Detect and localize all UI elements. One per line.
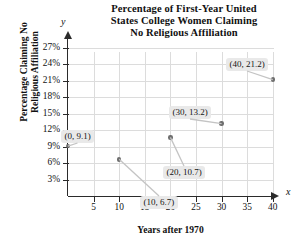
y-axis-arrow-icon: [64, 31, 72, 39]
y-axis-tick: [63, 114, 69, 115]
data-point-marker: [117, 157, 121, 161]
y-axis-tick-label: 27%: [18, 42, 60, 52]
x-axis-variable-label: x: [286, 186, 290, 197]
y-axis-tick: [63, 97, 69, 98]
chart-title-line-1: Percentage of First-Year United: [62, 3, 306, 15]
gridline-vertical: [119, 52, 120, 196]
x-axis-tick-label: 35: [236, 202, 258, 212]
gridline-vertical: [247, 52, 248, 196]
data-point-callout: (0, 9.1): [61, 130, 94, 143]
x-axis-title: Years after 1970: [68, 224, 273, 235]
y-axis-tick-label: 6%: [18, 157, 60, 167]
chart-figure: Percentage of First-Year United States C…: [0, 0, 308, 246]
y-axis-line: [67, 38, 68, 196]
gridline-vertical: [145, 52, 146, 196]
y-axis-tick-label: 9%: [18, 141, 60, 151]
x-axis-tick-label: 30: [211, 202, 233, 212]
y-axis-tick: [63, 163, 69, 164]
data-point-callout: (40, 21.2): [226, 58, 268, 71]
x-axis-tick-label: 25: [185, 202, 207, 212]
chart-title: Percentage of First-Year United States C…: [62, 3, 306, 40]
data-point-marker: [271, 77, 275, 81]
data-point-marker: [219, 121, 223, 125]
y-axis-tick-label: 21%: [18, 75, 60, 85]
data-point-callout: (30, 13.2): [169, 106, 211, 119]
x-axis-tick-label: 10: [108, 202, 130, 212]
y-axis-tick-label: 24%: [18, 58, 60, 68]
data-point-marker: [168, 135, 172, 139]
y-axis-tick-label: 3%: [18, 174, 60, 184]
y-axis-tick-label: 18%: [18, 91, 60, 101]
x-axis-tick-label: 40: [262, 202, 284, 212]
data-point-callout: (10, 6.7): [140, 196, 178, 209]
y-axis-tick-label: 12%: [18, 124, 60, 134]
gridline-vertical: [273, 52, 274, 196]
chart-title-line-2: States College Women Claiming: [62, 15, 306, 27]
y-axis-tick-label: 15%: [18, 108, 60, 118]
y-axis-tick: [63, 180, 69, 181]
y-axis-tick: [63, 81, 69, 82]
y-axis-variable-label: y: [61, 16, 65, 27]
chart-title-line-3: No Religious Affiliation: [62, 27, 306, 39]
gridline-horizontal: [68, 48, 274, 49]
gridline-vertical: [94, 52, 95, 196]
x-axis-tick-label: 5: [83, 202, 105, 212]
y-axis-tick: [63, 48, 69, 49]
data-point-callout: (20, 10.7): [163, 166, 205, 179]
y-axis-tick: [63, 64, 69, 65]
